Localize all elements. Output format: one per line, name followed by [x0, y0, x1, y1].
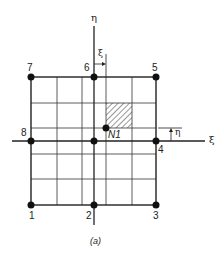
- node-label-3: 3: [153, 211, 159, 221]
- node-label-7: 7: [27, 63, 33, 73]
- node-2: [91, 202, 98, 209]
- figure-caption: (a): [90, 237, 101, 246]
- eta-dimension-label: η: [175, 128, 180, 137]
- center-node: [91, 138, 98, 145]
- hatched-subelement: [106, 103, 132, 128]
- node-label-1: 1: [29, 211, 35, 221]
- node-1: [28, 202, 35, 209]
- xi-dimension-label: ξ: [98, 49, 103, 58]
- node-label-8: 8: [21, 128, 27, 138]
- node-label-5: 5: [152, 63, 158, 73]
- node-5: [153, 74, 160, 81]
- node-label-6: 6: [84, 63, 90, 73]
- node-8: [28, 138, 35, 145]
- node-6: [91, 74, 98, 81]
- point-n1-label: N1: [108, 130, 121, 140]
- xi-axis-label: ξ: [209, 135, 215, 145]
- node-label-4: 4: [158, 145, 164, 155]
- node-7: [28, 74, 35, 81]
- node-3: [153, 202, 160, 209]
- eta-axis-label: η: [91, 13, 97, 23]
- node-label-2: 2: [86, 211, 92, 221]
